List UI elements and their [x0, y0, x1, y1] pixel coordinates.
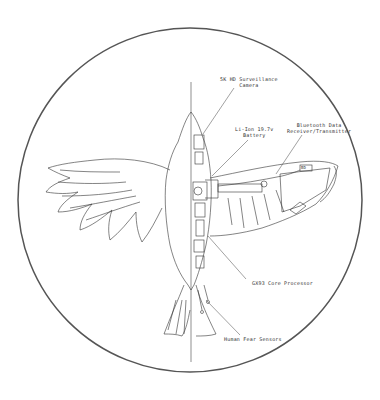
callout-bluetooth: Bluetooth Data Receiver/Transmitter	[287, 122, 351, 134]
callout-battery: Li-Ion 19.7v Battery	[235, 126, 274, 138]
camera-label-line2: Camera	[220, 82, 278, 88]
battery-label-line2: Battery	[235, 132, 274, 138]
sensors-label: Human Fear Sensors	[224, 336, 282, 342]
frame-circle	[18, 28, 362, 372]
diagram-svg	[0, 0, 380, 400]
callout-processor: GX93 Core Processor	[252, 280, 313, 286]
callout-camera: 5K HD Surveillance Camera	[220, 76, 278, 88]
bluetooth-label-line2: Receiver/Transmitter	[287, 128, 351, 134]
callout-sensors: Human Fear Sensors	[224, 336, 282, 342]
chip-label: BD	[301, 165, 306, 171]
bird-drawing	[46, 112, 338, 336]
bird-cutaway-diagram: 5K HD Surveillance Camera Li-Ion 19.7v B…	[0, 0, 380, 400]
processor-label: GX93 Core Processor	[252, 280, 313, 286]
